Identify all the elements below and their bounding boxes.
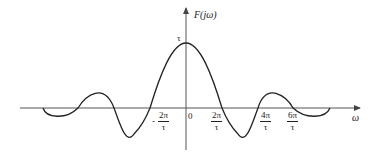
x-axis-label: ω bbox=[352, 113, 359, 123]
plot-canvas bbox=[0, 0, 376, 154]
tick-neg-sign: - bbox=[152, 116, 155, 126]
tick-label-2pi-tau: 2π τ bbox=[211, 111, 222, 132]
tick-label-4pi-tau: 4π τ bbox=[260, 111, 271, 132]
origin-label: 0 bbox=[188, 112, 193, 121]
tick-label-neg-2pi-tau: 2π τ bbox=[158, 111, 169, 132]
tick-label-6pi-tau: 6π τ bbox=[287, 111, 298, 132]
y-axis-label: F(jω) bbox=[194, 10, 217, 20]
peak-label: τ bbox=[177, 34, 181, 43]
